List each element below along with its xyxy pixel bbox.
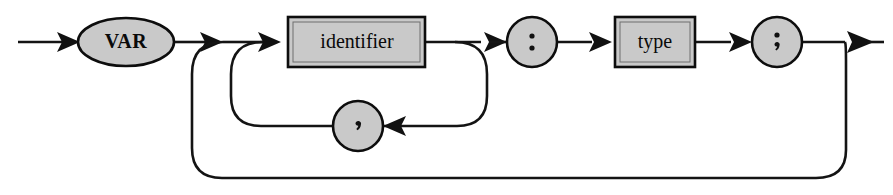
railroad-diagram: VAR identifier type — [0, 0, 893, 195]
identifier-label: identifier — [320, 30, 394, 52]
type-label: type — [638, 30, 673, 53]
var-label: VAR — [105, 30, 147, 52]
node-var: VAR — [78, 18, 174, 66]
node-identifier: identifier — [288, 17, 425, 67]
node-type: type — [615, 17, 695, 67]
railroad-diagram-svg: VAR identifier type — [0, 0, 893, 195]
colon-to-type-arrowhead — [589, 32, 612, 52]
type-to-semicolon-arrowhead — [729, 32, 752, 52]
